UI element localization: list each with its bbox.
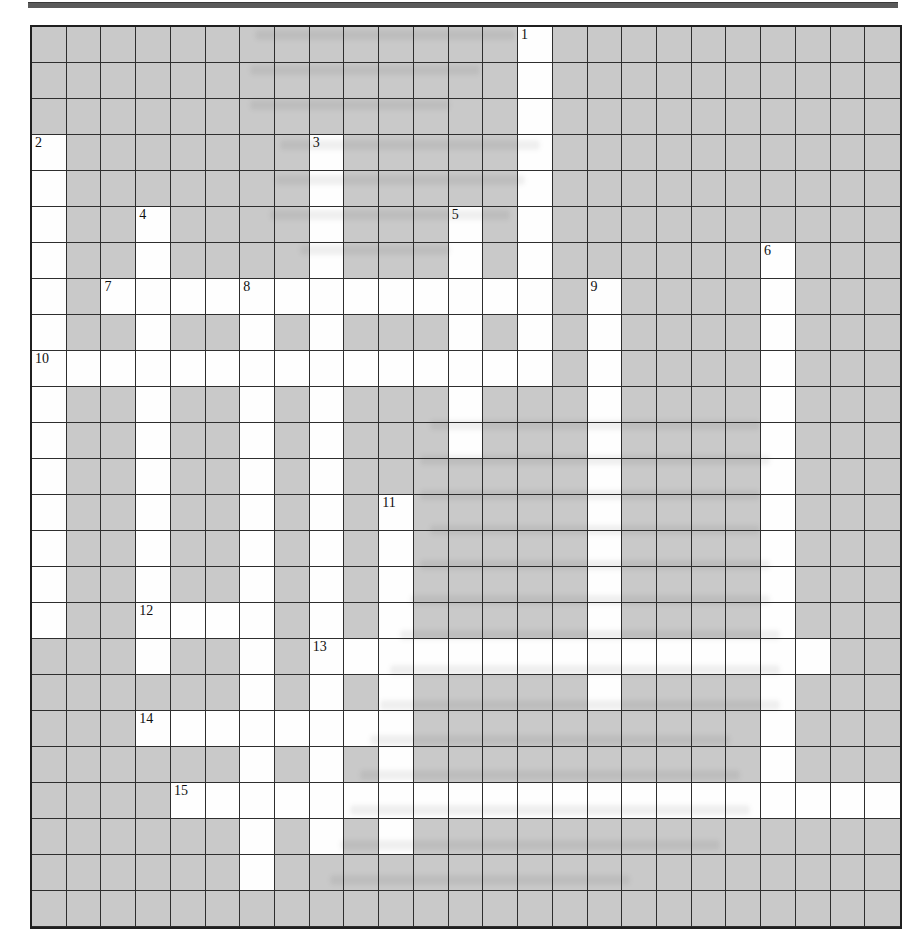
answer-cell-r9-c1[interactable]	[67, 351, 102, 387]
answer-cell-r6-c0[interactable]	[32, 243, 67, 279]
answer-cell-r18-c21[interactable]	[761, 675, 796, 711]
answer-cell-r16-c10[interactable]	[379, 603, 414, 639]
answer-cell-r7-c7[interactable]	[275, 279, 310, 315]
answer-cell-r17-c14[interactable]	[518, 639, 553, 675]
answer-cell-r5-c3[interactable]: 4	[136, 207, 171, 243]
answer-cell-r7-c11[interactable]	[414, 279, 449, 315]
answer-cell-r10-c12[interactable]	[449, 387, 484, 423]
answer-cell-r19-c8[interactable]	[310, 711, 345, 747]
answer-cell-r22-c8[interactable]	[310, 819, 345, 855]
answer-cell-r9-c4[interactable]	[171, 351, 206, 387]
answer-cell-r11-c21[interactable]	[761, 423, 796, 459]
answer-cell-r1-c14[interactable]	[518, 63, 553, 99]
answer-cell-r9-c9[interactable]	[344, 351, 379, 387]
answer-cell-r17-c3[interactable]	[136, 639, 171, 675]
answer-cell-r19-c21[interactable]	[761, 711, 796, 747]
answer-cell-r17-c10[interactable]	[379, 639, 414, 675]
answer-cell-r20-c6[interactable]	[240, 747, 275, 783]
answer-cell-r13-c10[interactable]: 11	[379, 495, 414, 531]
answer-cell-r17-c20[interactable]	[726, 639, 761, 675]
answer-cell-r4-c8[interactable]	[310, 171, 345, 207]
answer-cell-r17-c18[interactable]	[657, 639, 692, 675]
answer-cell-r9-c10[interactable]	[379, 351, 414, 387]
answer-cell-r20-c21[interactable]	[761, 747, 796, 783]
answer-cell-r7-c16[interactable]: 9	[588, 279, 623, 315]
answer-cell-r15-c6[interactable]	[240, 567, 275, 603]
answer-cell-r13-c3[interactable]	[136, 495, 171, 531]
answer-cell-r14-c3[interactable]	[136, 531, 171, 567]
answer-cell-r19-c4[interactable]	[171, 711, 206, 747]
answer-cell-r10-c8[interactable]	[310, 387, 345, 423]
answer-cell-r11-c0[interactable]	[32, 423, 67, 459]
answer-cell-r21-c5[interactable]	[206, 783, 241, 819]
answer-cell-r16-c6[interactable]	[240, 603, 275, 639]
answer-cell-r12-c6[interactable]	[240, 459, 275, 495]
answer-cell-r21-c10[interactable]	[379, 783, 414, 819]
answer-cell-r17-c13[interactable]	[483, 639, 518, 675]
answer-cell-r14-c16[interactable]	[588, 531, 623, 567]
answer-cell-r16-c3[interactable]: 12	[136, 603, 171, 639]
answer-cell-r21-c11[interactable]	[414, 783, 449, 819]
answer-cell-r9-c8[interactable]	[310, 351, 345, 387]
answer-cell-r21-c13[interactable]	[483, 783, 518, 819]
answer-cell-r9-c5[interactable]	[206, 351, 241, 387]
answer-cell-r17-c21[interactable]	[761, 639, 796, 675]
answer-cell-r12-c21[interactable]	[761, 459, 796, 495]
answer-cell-r13-c8[interactable]	[310, 495, 345, 531]
answer-cell-r21-c18[interactable]	[657, 783, 692, 819]
answer-cell-r21-c6[interactable]	[240, 783, 275, 819]
answer-cell-r12-c3[interactable]	[136, 459, 171, 495]
answer-cell-r11-c6[interactable]	[240, 423, 275, 459]
answer-cell-r15-c21[interactable]	[761, 567, 796, 603]
answer-cell-r5-c0[interactable]	[32, 207, 67, 243]
answer-cell-r11-c16[interactable]	[588, 423, 623, 459]
answer-cell-r8-c6[interactable]	[240, 315, 275, 351]
answer-cell-r13-c16[interactable]	[588, 495, 623, 531]
answer-cell-r19-c5[interactable]	[206, 711, 241, 747]
answer-cell-r7-c21[interactable]	[761, 279, 796, 315]
answer-cell-r14-c21[interactable]	[761, 531, 796, 567]
answer-cell-r14-c8[interactable]	[310, 531, 345, 567]
answer-cell-r21-c15[interactable]	[553, 783, 588, 819]
answer-cell-r11-c3[interactable]	[136, 423, 171, 459]
answer-cell-r7-c3[interactable]	[136, 279, 171, 315]
answer-cell-r21-c22[interactable]	[796, 783, 831, 819]
answer-cell-r11-c8[interactable]	[310, 423, 345, 459]
answer-cell-r7-c8[interactable]	[310, 279, 345, 315]
answer-cell-r5-c14[interactable]	[518, 207, 553, 243]
answer-cell-r9-c14[interactable]	[518, 351, 553, 387]
answer-cell-r9-c13[interactable]	[483, 351, 518, 387]
answer-cell-r19-c7[interactable]	[275, 711, 310, 747]
answer-cell-r9-c2[interactable]	[101, 351, 136, 387]
answer-cell-r19-c3[interactable]: 14	[136, 711, 171, 747]
answer-cell-r21-c16[interactable]	[588, 783, 623, 819]
answer-cell-r23-c6[interactable]	[240, 855, 275, 891]
answer-cell-r17-c15[interactable]	[553, 639, 588, 675]
answer-cell-r15-c8[interactable]	[310, 567, 345, 603]
answer-cell-r21-c12[interactable]	[449, 783, 484, 819]
answer-cell-r8-c16[interactable]	[588, 315, 623, 351]
answer-cell-r3-c0[interactable]: 2	[32, 135, 67, 171]
answer-cell-r5-c8[interactable]	[310, 207, 345, 243]
answer-cell-r17-c22[interactable]	[796, 639, 831, 675]
answer-cell-r15-c0[interactable]	[32, 567, 67, 603]
answer-cell-r9-c12[interactable]	[449, 351, 484, 387]
answer-cell-r9-c6[interactable]	[240, 351, 275, 387]
answer-cell-r6-c21[interactable]: 6	[761, 243, 796, 279]
answer-cell-r10-c6[interactable]	[240, 387, 275, 423]
answer-cell-r17-c17[interactable]	[622, 639, 657, 675]
answer-cell-r21-c4[interactable]: 15	[171, 783, 206, 819]
answer-cell-r16-c21[interactable]	[761, 603, 796, 639]
answer-cell-r8-c21[interactable]	[761, 315, 796, 351]
answer-cell-r13-c0[interactable]	[32, 495, 67, 531]
answer-cell-r16-c4[interactable]	[171, 603, 206, 639]
answer-cell-r7-c6[interactable]: 8	[240, 279, 275, 315]
answer-cell-r7-c10[interactable]	[379, 279, 414, 315]
answer-cell-r8-c8[interactable]	[310, 315, 345, 351]
answer-cell-r22-c10[interactable]	[379, 819, 414, 855]
answer-cell-r18-c6[interactable]	[240, 675, 275, 711]
answer-cell-r10-c16[interactable]	[588, 387, 623, 423]
answer-cell-r8-c3[interactable]	[136, 315, 171, 351]
answer-cell-r7-c14[interactable]	[518, 279, 553, 315]
answer-cell-r17-c19[interactable]	[692, 639, 727, 675]
